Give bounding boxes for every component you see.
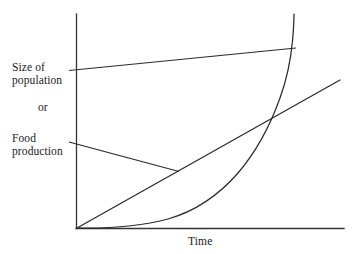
y-axis-label-food-line1: Food <box>12 132 36 144</box>
malthusian-growth-figure: Size of population or Food production Ti… <box>0 0 357 254</box>
y-axis-label-food-line2: production <box>12 145 63 158</box>
chart-canvas: Size of population or Food production Ti… <box>0 0 357 254</box>
x-axis-label: Time <box>188 235 212 247</box>
y-axis-label-population-line1: Size of <box>12 61 45 73</box>
y-axis-label-population-line2: population <box>12 74 62 87</box>
y-axis-label-conjunction: or <box>38 101 48 113</box>
